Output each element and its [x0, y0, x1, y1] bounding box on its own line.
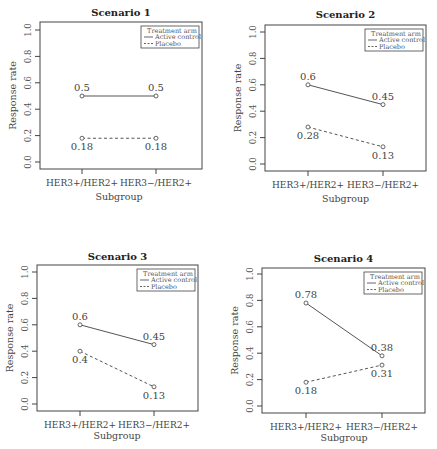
- x-axis: HER3+/HER2+HER3−/HER2+: [270, 413, 418, 432]
- x-axis-label: Subgroup: [93, 430, 140, 441]
- legend: Treatment armActive controlPlacebo: [137, 269, 197, 291]
- x-category-label: HER3−/HER2+: [347, 180, 419, 190]
- y-axis: 0.00.20.40.60.81.0: [245, 267, 262, 413]
- data-value-label: 0.6: [300, 71, 316, 82]
- y-tick-label: 1.0: [23, 23, 33, 37]
- y-tick-label: 1.0: [245, 267, 255, 281]
- data-value-label: 0.38: [371, 342, 393, 353]
- x-category-label: HER3+/HER2+: [44, 420, 116, 430]
- data-point-marker: [78, 323, 82, 327]
- chart-panel-4: Scenario 40.00.20.40.60.81.0Response rat…: [229, 253, 425, 443]
- data-point-marker: [80, 94, 84, 98]
- y-axis: 0.00.20.40.60.81.0: [23, 23, 40, 169]
- x-axis-label: Subgroup: [322, 193, 369, 204]
- y-tick-label: 0.8: [245, 294, 255, 308]
- series-active-control: 0.50.5: [74, 82, 164, 98]
- x-category-label: HER3+/HER2+: [270, 422, 342, 432]
- chart-panel-2: Scenario 20.00.20.40.60.81.0Response rat…: [232, 9, 426, 204]
- y-axis-label: Response rate: [4, 303, 15, 372]
- x-axis-label: Subgroup: [95, 191, 142, 202]
- data-value-label: 0.45: [372, 91, 394, 102]
- data-point-marker: [306, 83, 310, 87]
- legend-entry-label: Placebo: [151, 283, 177, 291]
- data-value-label: 0.13: [372, 150, 394, 161]
- y-tick-label: 0.0: [248, 157, 258, 171]
- panel-title: Scenario 2: [316, 9, 376, 20]
- chart-canvas: Scenario 10.00.20.40.60.81.0Response rat…: [0, 0, 437, 449]
- y-axis-label: Response rate: [7, 61, 18, 130]
- x-axis: HER3+/HER2+HER3−/HER2+: [44, 411, 190, 430]
- legend-entry-label: Placebo: [155, 40, 181, 48]
- legend: Treatment armActive controlPlacebo: [365, 29, 425, 51]
- legend-entry-label: Placebo: [379, 43, 405, 51]
- panel-title: Scenario 3: [88, 251, 148, 262]
- series-active-control: 0.60.45: [300, 71, 394, 107]
- y-tick-label: 0.6: [23, 76, 33, 90]
- y-tick-label: 0.2: [20, 371, 30, 385]
- y-tick-label: 1.0: [20, 265, 30, 279]
- y-tick-label: 0.0: [20, 397, 30, 411]
- y-tick-label: 0.0: [23, 155, 33, 169]
- series-active-control: 0.780.38: [295, 289, 393, 358]
- x-category-label: HER3+/HER2+: [46, 178, 118, 188]
- x-axis: HER3+/HER2+HER3−/HER2+: [46, 169, 192, 188]
- data-value-label: 0.78: [295, 289, 317, 300]
- data-point-marker: [80, 136, 84, 140]
- data-point-marker: [154, 136, 158, 140]
- data-value-label: 0.18: [71, 141, 93, 152]
- y-axis-label: Response rate: [229, 306, 240, 375]
- x-category-label: HER3−/HER2+: [118, 420, 190, 430]
- data-value-label: 0.13: [143, 390, 165, 401]
- y-tick-label: 0.6: [20, 318, 30, 332]
- x-axis-label: Subgroup: [320, 432, 367, 443]
- data-point-marker: [381, 145, 385, 149]
- y-tick-label: 0.6: [245, 320, 255, 334]
- data-point-marker: [380, 354, 384, 358]
- x-category-label: HER3−/HER2+: [120, 178, 192, 188]
- y-tick-label: 0.6: [248, 78, 258, 92]
- y-tick-label: 0.4: [20, 344, 30, 358]
- data-value-label: 0.6: [72, 311, 88, 322]
- data-value-label: 0.18: [145, 141, 167, 152]
- data-point-marker: [152, 343, 156, 347]
- panel-title: Scenario 1: [91, 7, 151, 18]
- y-tick-label: 0.4: [248, 104, 258, 118]
- legend-entry-label: Placebo: [378, 286, 404, 294]
- data-value-label: 0.31: [371, 368, 393, 379]
- data-point-marker: [380, 363, 384, 367]
- y-tick-label: 0.0: [245, 399, 255, 413]
- data-point-marker: [304, 301, 308, 305]
- y-tick-label: 0.8: [20, 292, 30, 306]
- series-line: [308, 127, 383, 147]
- figure-scenarios-grid: Scenario 10.00.20.40.60.81.0Response rat…: [0, 0, 437, 449]
- data-point-marker: [381, 103, 385, 107]
- data-point-marker: [304, 380, 308, 384]
- data-value-label: 0.18: [295, 385, 317, 396]
- legend: Treatment armActive controlPlacebo: [141, 26, 201, 48]
- data-value-label: 0.45: [143, 331, 165, 342]
- data-point-marker: [154, 94, 158, 98]
- x-category-label: HER3−/HER2+: [346, 422, 418, 432]
- data-point-marker: [152, 385, 156, 389]
- y-tick-label: 0.4: [245, 346, 255, 360]
- series-active-control: 0.60.45: [72, 311, 165, 347]
- data-value-label: 0.5: [74, 82, 90, 93]
- series-placebo: 0.40.13: [72, 349, 165, 401]
- panel-title: Scenario 4: [314, 253, 374, 264]
- y-tick-label: 0.2: [23, 129, 33, 143]
- series-placebo: 0.180.18: [71, 136, 167, 152]
- data-value-label: 0.28: [297, 130, 319, 141]
- x-axis: HER3+/HER2+HER3−/HER2+: [272, 171, 419, 190]
- data-point-marker: [306, 125, 310, 129]
- y-axis: 0.00.20.40.60.81.0: [20, 265, 37, 411]
- series-placebo: 0.180.31: [295, 363, 393, 396]
- y-tick-label: 0.8: [23, 50, 33, 64]
- y-tick-label: 0.4: [23, 102, 33, 116]
- legend: Treatment armActive controlPlacebo: [364, 272, 424, 294]
- data-value-label: 0.5: [148, 82, 164, 93]
- y-tick-label: 0.2: [245, 373, 255, 387]
- data-point-marker: [78, 349, 82, 353]
- x-category-label: HER3+/HER2+: [272, 180, 344, 190]
- data-value-label: 0.4: [72, 354, 88, 365]
- y-axis: 0.00.20.40.60.81.0: [248, 25, 265, 171]
